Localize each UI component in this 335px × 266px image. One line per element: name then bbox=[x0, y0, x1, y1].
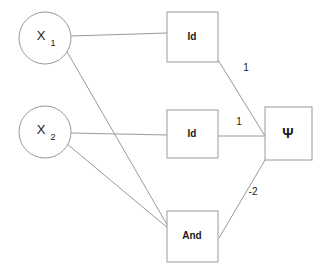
unit-label-id-middle: Id bbox=[188, 128, 197, 139]
edge-x2-to-and bbox=[66, 143, 169, 229]
edge-and-to-psi bbox=[219, 160, 265, 238]
input-label-x1-subscript: 1 bbox=[50, 38, 55, 48]
weight-label-id-mid-to-psi: 1 bbox=[236, 116, 242, 127]
edge-x1-to-id-top bbox=[71, 33, 167, 36]
input-node-x1: X 1 bbox=[19, 12, 71, 64]
input-node-x2: X 2 bbox=[19, 106, 71, 158]
edge-group bbox=[66, 33, 265, 238]
unit-label-id-top: Id bbox=[188, 31, 197, 42]
input-label-x2-subscript: 2 bbox=[50, 132, 55, 142]
input-label-x1-base: X bbox=[37, 28, 46, 43]
weight-label-group: 1 1 -2 bbox=[236, 62, 258, 197]
unit-label-and: And bbox=[182, 230, 201, 241]
output-node-psi: Ψ bbox=[265, 107, 312, 160]
edge-x2-to-id-mid bbox=[71, 133, 167, 135]
weight-label-id-top-to-psi: 1 bbox=[243, 62, 249, 73]
weight-label-and-to-psi: -2 bbox=[249, 186, 258, 197]
unit-node-id-middle: Id bbox=[167, 110, 218, 158]
output-label-psi: Ψ bbox=[282, 125, 293, 141]
unit-node-and: And bbox=[167, 211, 218, 262]
input-label-x2-base: X bbox=[37, 122, 46, 137]
network-diagram: X 1 X 2 Id Id And Ψ 1 1 -2 bbox=[0, 0, 335, 266]
diagram-canvas: X 1 X 2 Id Id And Ψ 1 1 -2 bbox=[0, 0, 335, 266]
edge-x1-to-and bbox=[66, 50, 169, 228]
unit-node-id-top: Id bbox=[167, 12, 218, 62]
